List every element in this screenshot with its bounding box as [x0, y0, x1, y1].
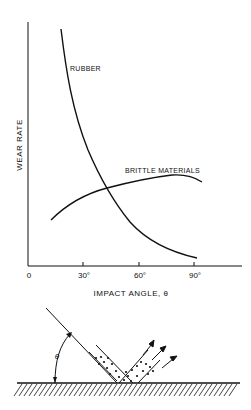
- x-axis-title: IMPACT ANGLE, θ: [94, 289, 169, 298]
- incident-line: [46, 308, 117, 383]
- rebound-boundary: [138, 360, 160, 383]
- rubber-label: RUBBER: [70, 65, 101, 72]
- x-tick-label-0: 0: [27, 271, 32, 280]
- brittle-materials-label: BRITTLE MATERIALS: [125, 167, 200, 174]
- stream-boundary: [96, 345, 133, 383]
- arc-arrow-bottom: [53, 377, 57, 383]
- brittle-materials-curve: [51, 175, 202, 220]
- wear-rate-figure: 0 30° 60° 90° IMPACT ANGLE, θ WEAR RATE …: [0, 0, 251, 410]
- x-tick-label-60: 60°: [134, 271, 146, 280]
- y-axis-title: WEAR RATE: [15, 119, 24, 170]
- stream-boundary: [89, 352, 117, 381]
- impact-diagram: θ: [14, 308, 240, 396]
- rubber-curve: [61, 29, 197, 258]
- x-tick-label-30: 30°: [78, 271, 90, 280]
- x-tick-label-90: 90°: [189, 271, 201, 280]
- surface-hatching: [14, 384, 237, 396]
- rebound-arrows: [143, 340, 177, 368]
- angle-theta-label: θ: [55, 352, 60, 361]
- wear-rate-chart: 0 30° 60° 90° IMPACT ANGLE, θ WEAR RATE …: [15, 22, 242, 298]
